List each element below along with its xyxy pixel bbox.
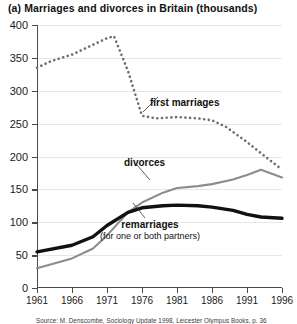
- x-axis-tick: [177, 288, 178, 293]
- x-axis-label: 1961: [26, 295, 48, 306]
- x-axis-label: 1971: [96, 295, 118, 306]
- y-axis-label: 200: [10, 151, 28, 163]
- x-axis-label: 1976: [131, 295, 153, 306]
- chart-title: (a) Marriages and divorces in Britain (t…: [8, 2, 257, 14]
- y-axis-label: 100: [10, 216, 28, 228]
- x-axis-tick: [212, 288, 213, 293]
- y-axis-label: 50: [16, 249, 28, 261]
- x-axis-label: 1986: [201, 295, 223, 306]
- y-axis-label: 150: [10, 183, 28, 195]
- x-axis-label: 1966: [61, 295, 83, 306]
- x-axis-tick: [107, 288, 108, 293]
- y-axis-label: 0: [22, 282, 28, 294]
- x-axis-label: 1996: [271, 295, 293, 306]
- annotation-first-marriages: first marriages: [150, 97, 219, 108]
- x-axis-label: 1991: [236, 295, 258, 306]
- x-axis-tick: [282, 288, 283, 293]
- annotation-remarriages-subtitle: (for one or both partners): [100, 231, 200, 241]
- x-axis-tick: [37, 288, 38, 293]
- x-axis-tick: [72, 288, 73, 293]
- source-caption: Source: M. Denscombe, Sociology Update 1…: [36, 317, 267, 324]
- x-axis-tick: [247, 288, 248, 293]
- y-axis-label: 250: [10, 118, 28, 130]
- annotation-divorces: divorces: [124, 157, 165, 168]
- annotation-remarriages: remarriages: [121, 219, 178, 230]
- y-axis-label: 400: [10, 19, 28, 31]
- y-axis-label: 350: [10, 52, 28, 64]
- x-axis-label: 1981: [166, 295, 188, 306]
- y-axis-label: 300: [10, 85, 28, 97]
- x-axis-tick: [142, 288, 143, 293]
